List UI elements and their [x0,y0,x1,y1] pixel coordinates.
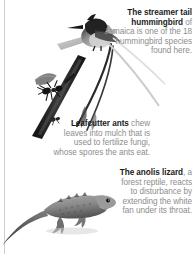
anolis-lizard-photo [0,176,120,254]
caption-leafcutter-ants-lead: Leafcutter ants [71,119,129,128]
caption-leafcutter-ants: Leafcutter ants chew leaves into mulch t… [50,119,150,157]
caption-anolis-lizard: The anolis lizard, a forest reptile, rea… [114,168,192,216]
left-margin-rule [4,0,5,254]
caption-anolis-lizard-lead: The anolis lizard [120,168,183,177]
wildlife-caption-panel: The streamer tail hummingbird of Jamaica… [0,0,196,254]
caption-hummingbird: The streamer tail hummingbird of Jamaica… [100,8,192,56]
